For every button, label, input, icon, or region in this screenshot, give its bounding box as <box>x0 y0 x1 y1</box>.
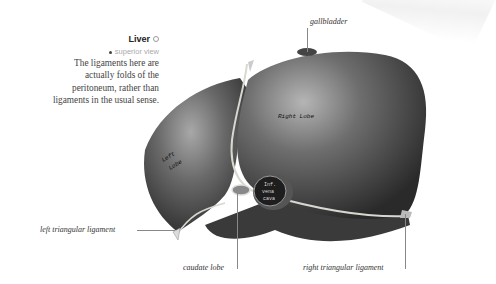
right-lobe-label: Right Lobe <box>278 113 314 120</box>
right-triangular-ligament-label: right triangular ligament <box>303 263 383 272</box>
gallbladder-leader <box>307 28 308 52</box>
gallbladder-label: gallbladder <box>310 17 347 26</box>
vena-cava-label: cava <box>263 196 275 202</box>
caudate-lobe-label: caudate lobe <box>183 263 224 272</box>
right-triangular-leader <box>405 214 406 269</box>
vena-cava-label: Inf. <box>264 182 276 188</box>
left-triangular-ligament-label: left triangular ligament <box>40 225 115 234</box>
caudate-lobe <box>232 185 250 195</box>
caudate-leader <box>237 193 238 269</box>
left-triangular-leader <box>137 230 175 231</box>
vena-cava-label: vena <box>262 189 274 195</box>
